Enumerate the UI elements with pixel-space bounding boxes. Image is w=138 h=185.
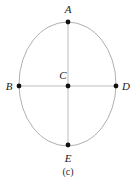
- figure-caption: (c): [62, 167, 73, 177]
- point-label-a: A: [65, 4, 72, 15]
- point-label-d: D: [122, 81, 130, 92]
- point-label-b: B: [6, 81, 13, 92]
- point-marker-b: [17, 84, 22, 89]
- point-marker-c: [66, 84, 71, 89]
- point-label-c: C: [59, 70, 66, 81]
- point-marker-d: [114, 84, 119, 89]
- point-marker-a: [66, 20, 71, 25]
- point-label-e: E: [65, 153, 72, 164]
- point-marker-e: [66, 143, 71, 148]
- geometry-figure-panel: A B C D E (c): [0, 0, 138, 185]
